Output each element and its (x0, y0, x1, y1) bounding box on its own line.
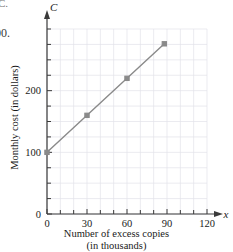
y-axis-variable-label: C (50, 1, 58, 13)
x-tick-label: 120 (199, 218, 215, 229)
gridlines (47, 29, 207, 214)
x-tick-label: 60 (122, 218, 133, 229)
data-series (45, 42, 167, 155)
x-axis-variable-label: x (223, 208, 229, 220)
axis-lines (44, 10, 223, 217)
data-point-marker[interactable] (45, 150, 49, 154)
x-tick-label: 0 (44, 218, 49, 229)
chart-figure: C. 00. Monthly cost (in dollars) Number … (0, 0, 233, 252)
tick-labels: 03060901200100200 (25, 85, 215, 229)
axis-variable-labels: Cx (50, 1, 229, 220)
y-tick-label: 200 (25, 85, 41, 96)
data-point-marker[interactable] (125, 76, 129, 80)
plot-area: 03060901200100200 Cx (0, 0, 233, 252)
x-axis-arrowhead (214, 211, 223, 217)
data-point-marker[interactable] (162, 42, 166, 46)
y-tick-label: 0 (36, 209, 41, 220)
data-point-marker[interactable] (85, 113, 89, 117)
y-tick-label: 100 (25, 147, 41, 158)
x-tick-label: 90 (162, 218, 173, 229)
x-tick-label: 30 (82, 218, 93, 229)
